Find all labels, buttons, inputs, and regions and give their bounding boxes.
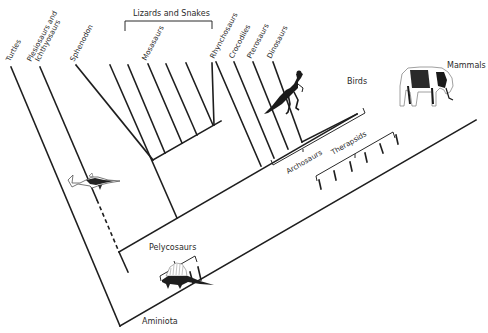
branch-rhynchosaurs xyxy=(216,62,261,166)
branch-lizard-1 xyxy=(128,65,165,153)
label-therapsids: Therapsids xyxy=(329,129,369,157)
lizards-snakes-bracket xyxy=(125,21,212,31)
label-sphenodon: Sphenodon xyxy=(68,23,95,63)
label-turtles: Turtles xyxy=(3,37,23,63)
therapsid-tick-2 xyxy=(334,171,336,180)
label-aminiota: Aminiota xyxy=(142,317,178,326)
branch-sphenodon-node xyxy=(110,65,177,218)
branch-plesiosaurs-dashed xyxy=(97,200,119,252)
therapsid-tick-4 xyxy=(365,153,367,162)
ichthyosaur-silhouette xyxy=(68,173,120,190)
label-pelycosaurs: Pelycosaurs xyxy=(149,243,196,252)
branch-turtles xyxy=(11,67,120,326)
branch-reptile-trunk xyxy=(119,114,357,252)
branch-lizard-4 xyxy=(186,63,213,125)
branch-sphenodon xyxy=(76,65,153,160)
mammoth-skeleton xyxy=(400,67,453,106)
label-lizards-and-snakes: Lizards and Snakes xyxy=(133,9,210,18)
therapsid-tick-3 xyxy=(350,162,352,171)
pelycosaur-tick-2 xyxy=(198,267,201,280)
label-birds: Birds xyxy=(347,77,367,86)
branch-plesiosaurs-base xyxy=(119,252,128,272)
label-mosasaurs: Mosasaurs xyxy=(140,24,166,62)
therapsid-tick-6 xyxy=(396,135,398,144)
label-mammals: Mammals xyxy=(447,61,486,70)
branch-lizard-3 xyxy=(166,64,197,135)
therapsid-tick-1 xyxy=(319,180,321,189)
branch-lepidosaur-trunk xyxy=(153,121,221,160)
branch-snakes xyxy=(212,63,214,125)
cladogram: Turtles Plesiosaurs and Ichthyosaurs Sph… xyxy=(0,0,488,333)
branch-mosasaurs xyxy=(148,64,182,143)
branch-pterosaurs xyxy=(253,62,288,149)
therapsid-tick-5 xyxy=(380,144,383,153)
